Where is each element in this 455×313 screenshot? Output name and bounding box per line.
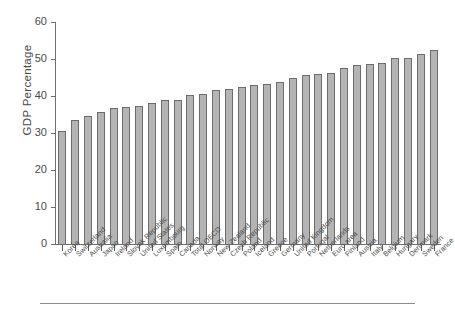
bar <box>110 108 118 244</box>
bar <box>71 120 79 244</box>
y-axis-tick-label: 30 <box>35 126 47 138</box>
bar <box>250 85 258 244</box>
bar <box>302 75 310 244</box>
bar <box>353 65 361 244</box>
plot-area: 0102030405060 <box>56 22 440 244</box>
y-axis-tick-label: 40 <box>35 89 47 101</box>
bar <box>314 74 322 244</box>
bar <box>186 95 194 244</box>
bar <box>238 87 246 244</box>
bar <box>212 90 220 244</box>
bar <box>276 82 284 244</box>
bar <box>430 50 438 244</box>
y-axis-tick: 10 <box>51 207 56 208</box>
bar <box>199 94 207 244</box>
bar <box>225 89 233 244</box>
y-axis-tick: 20 <box>51 170 56 171</box>
y-axis-tick: 30 <box>51 133 56 134</box>
bar <box>417 54 425 244</box>
bar <box>174 100 182 244</box>
bar <box>122 107 130 244</box>
y-axis-tick-label: 10 <box>35 200 47 212</box>
y-axis-tick-label: 20 <box>35 163 47 175</box>
bar <box>404 58 412 244</box>
y-axis-tick: 40 <box>51 96 56 97</box>
bar <box>340 68 348 244</box>
y-axis-tick: 60 <box>51 22 56 23</box>
bar <box>135 106 143 244</box>
y-axis-tick-label: 50 <box>35 52 47 64</box>
bar <box>391 58 399 244</box>
y-axis-tick: 0 <box>51 244 56 245</box>
y-axis-tick-label: 0 <box>41 237 47 249</box>
bar <box>378 63 386 244</box>
bar <box>84 116 92 244</box>
y-axis-title: GDP Percentage <box>16 0 38 215</box>
y-axis-tick: 50 <box>51 59 56 60</box>
bar <box>366 64 374 244</box>
bottom-rule <box>40 303 415 304</box>
bar <box>289 78 297 244</box>
bar <box>58 131 66 244</box>
y-axis-tick-label: 60 <box>35 15 47 27</box>
